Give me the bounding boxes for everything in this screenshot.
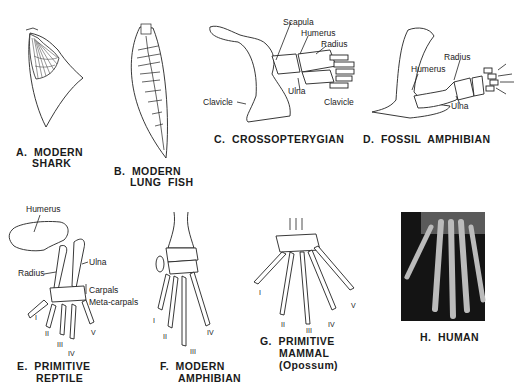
- panel-modern-lung-fish: B. MODERN LUNG FISH: [100, 0, 200, 200]
- panel-modern-amphibian: I II III IV F. MODERN AMPHIBIAN: [140, 200, 250, 388]
- digit-label-iii: III: [190, 348, 196, 356]
- digit-label-i: I: [153, 317, 155, 325]
- label-metacarpals: Meta-carpals: [89, 297, 138, 307]
- label-clavicle: Clavicle: [203, 97, 233, 107]
- caption-human: H. HUMAN: [420, 331, 479, 343]
- lung-fish-fin-illustration: [100, 0, 200, 165]
- label-humerus: Humerus: [411, 64, 445, 74]
- label-humerus: Humerus: [301, 28, 335, 38]
- digit-label-iv: IV: [207, 329, 214, 337]
- caption-fossil-amphibian: D. FOSSIL AMPHIBIAN: [363, 133, 490, 145]
- caption-modern-amphibian-2: AMPHIBIAN: [178, 372, 241, 384]
- caption-primitive-reptile-1: E. PRIMITIVE: [17, 360, 90, 372]
- digit-label-iv: IV: [328, 321, 335, 329]
- digit-label-iv: IV: [68, 350, 75, 358]
- label-ulna: Ulna: [451, 101, 468, 111]
- caption-primitive-mammal-1: G. PRIMITIVE: [260, 335, 335, 347]
- label-humerus: Humerus: [26, 204, 60, 214]
- digit-label-iii: III: [306, 327, 312, 335]
- caption-primitive-reptile-2: REPTILE: [36, 372, 83, 384]
- caption-primitive-mammal-2: MAMMAL: [279, 347, 329, 359]
- digit-label-v: V: [351, 302, 356, 310]
- label-ulna: Ulna: [89, 257, 106, 267]
- modern-amphibian-limb-illustration: [140, 200, 250, 360]
- digit-label-v: V: [91, 329, 96, 337]
- caption-modern-amphibian-1: F. MODERN: [160, 360, 225, 372]
- digit-label-ii: II: [45, 330, 49, 338]
- panel-crossopterygian: Scapula Humerus Radius Ulna Clavicle C. …: [190, 0, 370, 160]
- panel-modern-shark: A. MODERN SHARK: [0, 0, 90, 200]
- label-radius: Radius: [444, 52, 470, 62]
- label-radius: Radius: [18, 268, 44, 278]
- fossil-amphibian-limb-illustration: [350, 0, 518, 125]
- label-scapula: Scapula: [283, 17, 314, 27]
- digit-label-iii: III: [57, 341, 63, 349]
- panel-primitive-mammal: I II III IV V G. PRIMITIVE MAMMAL (Oposs…: [250, 200, 370, 388]
- panel-primitive-reptile: Humerus Ulna Radius Carpals Meta-carpals…: [0, 200, 150, 388]
- label-radius: Radius: [321, 39, 347, 49]
- caption-modern-lung-fish-2: LUNG FISH: [130, 176, 194, 188]
- digit-label-ii: II: [163, 333, 167, 341]
- caption-primitive-mammal-3: (Opossum): [279, 359, 338, 371]
- shark-fin-illustration: [0, 0, 90, 140]
- label-carpals: Carpals: [89, 285, 118, 295]
- caption-crossopterygian: C. CROSSOPTERYGIAN: [214, 133, 344, 145]
- digit-label-i: I: [35, 314, 37, 322]
- primitive-mammal-limb-illustration: [250, 200, 370, 340]
- label-ulna: Ulna: [288, 86, 305, 96]
- digit-label-i: I: [259, 289, 261, 297]
- panel-fossil-amphibian: Radius Humerus Clavicle Ulna D. FOSSIL A…: [350, 0, 518, 160]
- digit-label-ii: II: [281, 321, 285, 329]
- primitive-reptile-limb-illustration: [0, 200, 150, 360]
- panel-human: H. HUMAN: [360, 200, 518, 388]
- crossopterygian-fin-illustration: [190, 0, 370, 130]
- caption-modern-shark-2: SHARK: [32, 157, 71, 169]
- human-hand-xray: [401, 212, 485, 321]
- label-clavicle: Clavicle: [324, 97, 354, 107]
